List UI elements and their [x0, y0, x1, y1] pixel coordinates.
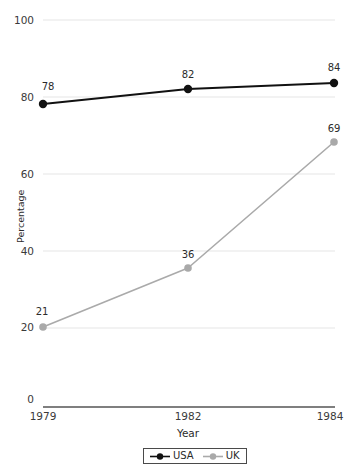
legend-label-uk: UK: [226, 451, 240, 461]
y-tick-label-60: 60: [6, 169, 34, 180]
y-tick-label-100: 100: [6, 15, 34, 26]
y-tick-label-0: 0: [6, 394, 34, 405]
line-chart: 100 80 60 40 20 0 Percentage 1979 1982 1…: [0, 0, 350, 471]
legend-marker-usa-icon: [150, 452, 170, 461]
legend-marker-uk-icon: [203, 452, 223, 461]
x-tick-label-1982: 1982: [168, 411, 208, 422]
data-label-uk-1982: 36: [175, 250, 201, 260]
chart-legend: USA UK: [143, 448, 247, 464]
legend-label-usa: USA: [173, 451, 194, 461]
y-tick-label-40: 40: [6, 246, 34, 257]
legend-item-usa[interactable]: USA: [150, 451, 194, 461]
data-label-usa-1982: 82: [175, 70, 201, 80]
y-axis-title: Percentage: [16, 190, 26, 243]
y-tick-label-80: 80: [6, 92, 34, 103]
legend-item-uk[interactable]: UK: [203, 451, 240, 461]
x-tick-label-1984: 1984: [310, 411, 350, 422]
data-label-uk-1984: 69: [321, 124, 347, 134]
y-tick-label-20: 20: [6, 322, 34, 333]
x-axis-title: Year: [148, 428, 228, 439]
series-usa: [39, 79, 338, 108]
series-uk: [39, 138, 338, 331]
data-label-usa-1979: 78: [35, 82, 61, 92]
gridlines: [43, 20, 335, 328]
data-label-uk-1979: 21: [29, 307, 55, 317]
x-tick-label-1979: 1979: [23, 411, 63, 422]
data-label-usa-1984: 84: [321, 63, 347, 73]
